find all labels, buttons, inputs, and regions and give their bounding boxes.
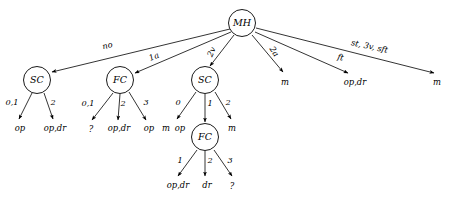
leaf-label: op bbox=[144, 123, 155, 133]
tree-edge bbox=[255, 32, 348, 73]
edge-label: 3 bbox=[227, 155, 232, 165]
tree-node-mh[interactable]: MH bbox=[229, 10, 256, 37]
leaf-label: op,dr bbox=[167, 180, 190, 190]
tree-edge bbox=[52, 29, 230, 72]
tree-edge bbox=[19, 93, 32, 119]
edge-label: 2v bbox=[204, 45, 218, 59]
diagram-canvas: MHSCFCSCFC opop,dr?op,dropmopmop,drdr?mo… bbox=[0, 0, 450, 200]
edge-label: 2 bbox=[224, 97, 230, 107]
node-label: MH bbox=[232, 17, 252, 28]
edge-label: 2 bbox=[119, 98, 125, 108]
edge-label: 0,1 bbox=[81, 98, 94, 108]
leaves-layer: opop,dr?op,dropmopmop,drdr?mop,drm bbox=[15, 77, 441, 191]
edge-label: 1a bbox=[147, 50, 160, 63]
edge-label: no bbox=[101, 39, 113, 51]
tree-node-sc2[interactable]: SC bbox=[192, 67, 219, 94]
edge-label: 1 bbox=[207, 98, 212, 108]
node-label: FC bbox=[197, 131, 213, 142]
tree-edge bbox=[256, 28, 434, 73]
leaf-label: m bbox=[162, 123, 170, 133]
leaf-label: m bbox=[228, 123, 236, 133]
leaf-label: op,dr bbox=[108, 123, 131, 133]
node-label: SC bbox=[198, 74, 213, 85]
leaf-label: ? bbox=[89, 124, 94, 134]
leaf-label: dr bbox=[202, 180, 212, 190]
edge-label: 2 bbox=[49, 97, 55, 107]
edge-label: 1 bbox=[177, 155, 182, 165]
leaf-label: m bbox=[281, 77, 289, 87]
tree-node-sc1[interactable]: SC bbox=[24, 67, 51, 94]
edge-label: 2a bbox=[267, 44, 282, 59]
node-label: FC bbox=[112, 74, 128, 85]
edge-label: ft bbox=[336, 51, 346, 62]
leaf-label: op bbox=[15, 123, 26, 133]
leaf-label: m bbox=[433, 77, 441, 87]
tree-edge bbox=[92, 93, 113, 120]
leaf-label: op,dr bbox=[344, 77, 367, 87]
leaf-label: op,dr bbox=[44, 123, 67, 133]
edge-label: st, 3v, sft bbox=[350, 37, 389, 55]
leaf-label: ? bbox=[230, 181, 235, 191]
leaf-label: op bbox=[175, 123, 186, 133]
tree-node-fc2[interactable]: FC bbox=[192, 124, 219, 151]
node-label: SC bbox=[30, 74, 45, 85]
edge-label: 0 bbox=[175, 97, 180, 107]
edge-label: 0,1 bbox=[5, 97, 18, 107]
decision-tree-svg: MHSCFCSCFC opop,dr?op,dropmopmop,drdr?mo… bbox=[0, 0, 450, 200]
tree-node-fc1[interactable]: FC bbox=[107, 67, 134, 94]
edge-label: 2 bbox=[206, 155, 212, 165]
edge-label: 3 bbox=[143, 97, 148, 107]
